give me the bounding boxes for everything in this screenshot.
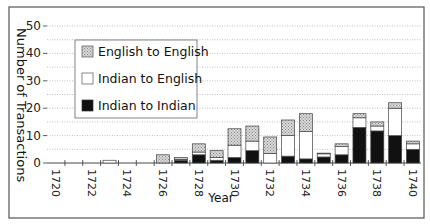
bar-segment-english-to-english bbox=[264, 137, 277, 153]
bar-segment-indian-to-indian bbox=[192, 155, 205, 163]
bar-segment-english-to-english bbox=[174, 158, 187, 160]
legend-label-indian-to-english: Indian to English bbox=[98, 71, 202, 86]
bar-segment-indian-to-english bbox=[103, 160, 116, 163]
bar-segment-indian-to-english bbox=[299, 131, 312, 158]
bar-segment-indian-to-indian bbox=[371, 131, 384, 163]
x-axis: 1720172217241726172817301732173417361738… bbox=[47, 160, 421, 197]
bar-segment-indian-to-indian bbox=[353, 127, 366, 163]
bar-segment-indian-to-english bbox=[335, 147, 348, 155]
chart-frame bbox=[9, 7, 424, 218]
x-tick-label: 1722 bbox=[85, 169, 98, 197]
bar-segment-indian-to-indian bbox=[407, 149, 420, 163]
bar-segment-english-to-english bbox=[282, 120, 295, 136]
bar-segment-english-to-english bbox=[317, 153, 330, 154]
bar-segment-indian-to-english bbox=[246, 141, 259, 151]
legend: English to English Indian to English Ind… bbox=[75, 40, 209, 118]
x-tick-label: 1726 bbox=[156, 169, 169, 197]
y-tick-label: 0 bbox=[33, 156, 41, 170]
bar-segment-indian-to-indian bbox=[282, 156, 295, 163]
bar-segment-indian-to-indian bbox=[228, 158, 241, 163]
bar-segment-english-to-english bbox=[228, 129, 241, 145]
bar-segment-indian-to-english bbox=[264, 153, 277, 163]
x-tick-label: 1738 bbox=[370, 169, 383, 197]
x-tick-label: 1734 bbox=[299, 169, 312, 197]
bar-segment-indian-to-english bbox=[407, 144, 420, 149]
x-tick-label: 1724 bbox=[120, 169, 133, 197]
bar-segment-indian-to-indian bbox=[246, 151, 259, 163]
x-tick-label: 1728 bbox=[192, 169, 205, 197]
bar-segment-indian-to-english bbox=[192, 152, 205, 155]
bar-segment-indian-to-indian bbox=[317, 157, 330, 163]
bar-segment-english-to-english bbox=[353, 114, 366, 118]
legend-swatch-indian-to-indian bbox=[82, 100, 93, 111]
legend-label-english-to-english: English to English bbox=[98, 44, 209, 59]
bar-segment-english-to-english bbox=[335, 144, 348, 147]
bar-segment-english-to-english bbox=[192, 144, 205, 152]
bar-segment-indian-to-indian bbox=[174, 160, 187, 163]
bar-segment-indian-to-english bbox=[353, 118, 366, 128]
bar-segment-indian-to-indian bbox=[335, 155, 348, 163]
bar-segment-indian-to-indian bbox=[389, 136, 402, 163]
bar-segment-english-to-english bbox=[210, 151, 223, 158]
bar-segment-english-to-english bbox=[371, 122, 384, 126]
x-tick-label: 1720 bbox=[49, 169, 62, 197]
bar-segment-indian-to-english bbox=[371, 126, 384, 131]
bar-segment-indian-to-english bbox=[210, 158, 223, 161]
bar-segment-english-to-english bbox=[389, 103, 402, 108]
y-axis-title: Number of Transactions bbox=[14, 28, 29, 182]
bar-segment-indian-to-indian bbox=[299, 159, 312, 163]
legend-swatch-indian-to-english bbox=[82, 73, 93, 84]
x-axis-title: Year bbox=[207, 191, 233, 205]
bar-segment-english-to-english bbox=[157, 155, 170, 163]
bar-segment-indian-to-indian bbox=[210, 160, 223, 163]
bar-segment-english-to-english bbox=[299, 114, 312, 132]
x-tick-label: 1736 bbox=[335, 169, 348, 197]
bar-segment-english-to-english bbox=[246, 126, 259, 141]
bar-segment-english-to-english bbox=[407, 141, 420, 144]
bar-segment-indian-to-english bbox=[228, 145, 241, 157]
bar-segment-indian-to-english bbox=[282, 136, 295, 157]
x-tick-label: 1732 bbox=[263, 169, 276, 197]
x-tick-label: 1740 bbox=[406, 169, 419, 197]
legend-swatch-english-to-english bbox=[82, 46, 93, 57]
stacked-bar-chart: 01020304050 1720172217241726172817301732… bbox=[0, 0, 430, 224]
legend-label-indian-to-indian: Indian to Indian bbox=[98, 98, 196, 113]
bar-segment-indian-to-english bbox=[389, 108, 402, 135]
